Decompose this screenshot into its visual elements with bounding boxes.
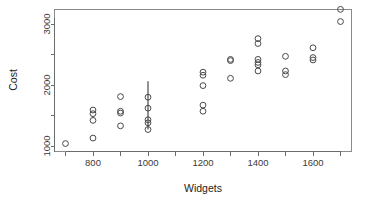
data-point [283,68,289,74]
data-point [255,68,261,74]
plot-frame [55,10,352,152]
data-point [228,75,234,81]
data-point [63,141,69,147]
y-axis: 100020003000 [41,13,55,156]
data-point [200,102,206,108]
data-point [118,123,124,129]
y-axis-tick-label: 3000 [41,13,52,34]
data-point [310,45,316,51]
data-point [90,107,96,113]
data-point [200,83,206,89]
chart-canvas: 100020003000 8001000120014001600 Cost Wi… [0,0,366,199]
x-axis-tick-label: 1600 [302,157,323,168]
x-axis: 8001000120014001600 [66,152,341,168]
y-axis-tick-label: 1000 [41,135,52,156]
x-axis-tick-label: 1000 [137,157,158,168]
x-axis-tick-label: 800 [85,157,101,168]
data-points [63,6,344,146]
data-point [283,53,289,59]
data-point [90,117,96,123]
scatter-plot-figure: 100020003000 8001000120014001600 Cost Wi… [0,0,366,199]
y-axis-title: Cost [7,69,19,91]
data-point [200,108,206,114]
data-point [338,19,344,25]
data-point [90,135,96,141]
x-axis-tick-label: 1200 [192,157,213,168]
x-axis-tick-label: 1400 [247,157,268,168]
x-axis-title: Widgets [184,182,222,194]
y-axis-tick-label: 2000 [41,74,52,95]
data-point [118,94,124,100]
